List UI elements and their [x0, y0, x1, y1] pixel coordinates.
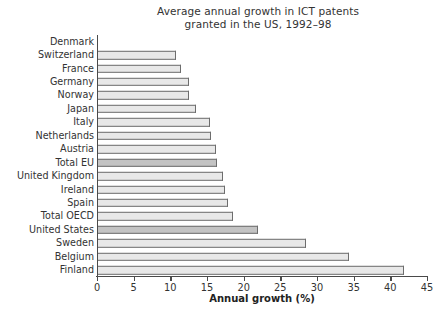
category-label: Italy	[73, 117, 94, 127]
category-label: Austria	[60, 144, 94, 154]
bar[interactable]	[98, 172, 223, 180]
bar-row: Spain	[98, 196, 428, 209]
x-tick	[280, 277, 281, 281]
bar[interactable]	[98, 199, 228, 207]
bar-row: Germany	[98, 75, 428, 88]
category-label: Belgium	[55, 252, 94, 262]
bar[interactable]	[98, 64, 181, 72]
category-label: Norway	[58, 90, 94, 100]
category-label: Total OECD	[41, 211, 94, 221]
x-tick-label: 0	[94, 282, 100, 293]
x-tick-label: 35	[347, 282, 359, 293]
category-label: Finland	[60, 265, 94, 275]
bar-row: France	[98, 62, 428, 75]
bar[interactable]	[98, 105, 196, 113]
bar-row: Sweden	[98, 237, 428, 250]
category-label: France	[62, 64, 94, 74]
bar-row: Austria	[98, 143, 428, 156]
bar[interactable]	[98, 91, 189, 99]
category-label: Japan	[67, 104, 94, 114]
x-tick	[354, 277, 355, 281]
bar-row: United States	[98, 223, 428, 236]
x-tick	[97, 277, 98, 281]
bar[interactable]	[98, 266, 404, 274]
bar[interactable]	[98, 118, 210, 126]
x-tick	[317, 277, 318, 281]
x-tick-label: 30	[311, 282, 323, 293]
category-label: Germany	[50, 77, 94, 87]
x-tick-label: 25	[274, 282, 286, 293]
x-tick-label: 10	[164, 282, 176, 293]
chart-title-line-2: granted in the US, 1992–98	[108, 18, 408, 31]
bar[interactable]	[98, 78, 189, 86]
x-tick-label: 15	[201, 282, 213, 293]
chart-container: Average annual growth in ICT patents gra…	[0, 0, 444, 314]
category-label: Sweden	[56, 238, 94, 248]
bar[interactable]	[98, 145, 216, 153]
bar-row: Norway	[98, 89, 428, 102]
x-tick	[390, 277, 391, 281]
plot-area: DenmarkSwitzerlandFranceGermanyNorwayJap…	[97, 35, 428, 277]
category-label: Ireland	[61, 185, 94, 195]
bar-row: Denmark	[98, 35, 428, 48]
bar-row: Switzerland	[98, 48, 428, 61]
bar[interactable]	[98, 253, 349, 261]
category-label: Netherlands	[36, 131, 94, 141]
bar[interactable]	[98, 226, 258, 234]
category-label: United States	[29, 225, 94, 235]
x-tick	[207, 277, 208, 281]
x-tick-label: 20	[237, 282, 249, 293]
bar[interactable]	[98, 159, 217, 167]
category-label: Spain	[67, 198, 94, 208]
bar-row: Italy	[98, 116, 428, 129]
bar-row: Netherlands	[98, 129, 428, 142]
chart-title: Average annual growth in ICT patents gra…	[108, 5, 408, 31]
x-tick-label: 45	[421, 282, 433, 293]
bar-row: Total OECD	[98, 210, 428, 223]
bar[interactable]	[98, 212, 233, 220]
bar[interactable]	[98, 185, 225, 193]
bar-row: Japan	[98, 102, 428, 115]
bar-row: Ireland	[98, 183, 428, 196]
chart-title-line-1: Average annual growth in ICT patents	[108, 5, 408, 18]
bar[interactable]	[98, 132, 211, 140]
x-tick	[170, 277, 171, 281]
bar-row: United Kingdom	[98, 169, 428, 182]
bar-row: Finland	[98, 264, 428, 277]
bar-row: Total EU	[98, 156, 428, 169]
x-axis-title: Annual growth (%)	[97, 293, 427, 304]
category-label: Switzerland	[38, 50, 94, 60]
x-tick	[427, 277, 428, 281]
category-label: Denmark	[50, 37, 94, 47]
x-tick-label: 40	[384, 282, 396, 293]
x-tick	[134, 277, 135, 281]
category-label: United Kingdom	[17, 171, 94, 181]
bar[interactable]	[98, 239, 306, 247]
x-tick-label: 5	[131, 282, 137, 293]
bar-row: Belgium	[98, 250, 428, 263]
x-tick	[244, 277, 245, 281]
bar[interactable]	[98, 51, 176, 59]
category-label: Total EU	[55, 158, 94, 168]
